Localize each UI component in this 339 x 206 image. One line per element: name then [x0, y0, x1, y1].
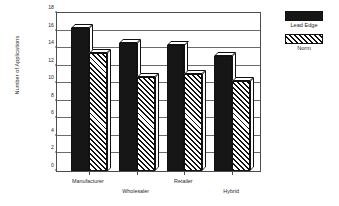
bar-group [71, 13, 107, 171]
bar-group [119, 13, 155, 171]
bar-front-face [89, 53, 107, 172]
x-axis-tick-mark [137, 171, 138, 175]
bar-side-face [107, 48, 111, 171]
y-axis-tick-label: 18 [48, 4, 54, 10]
bar-lead-edge [119, 43, 137, 171]
bar-front-face [137, 77, 155, 171]
bars-layer [57, 13, 260, 171]
bar-group [167, 13, 203, 171]
bar-group [214, 13, 250, 171]
hatched-swatch [285, 34, 323, 44]
x-axis-tick-mark [184, 171, 185, 175]
y-axis-tick-label: 8 [51, 92, 54, 98]
y-axis-tick-label: 2 [51, 144, 54, 150]
bar-norm [232, 81, 250, 171]
bar-front-face [232, 81, 250, 171]
plot-area: 024681012141618 [56, 12, 261, 172]
bar-side-face [155, 73, 159, 171]
legend-entry: Lead Edge [280, 11, 328, 28]
bar-chart-figure: Number of Applications 024681012141618 M… [0, 0, 339, 206]
y-axis-tick-label: 0 [51, 162, 54, 168]
solid-black-swatch [285, 11, 323, 21]
bar-front-face [167, 45, 185, 171]
bar-side-face [250, 76, 254, 171]
bar-side-face [202, 69, 206, 171]
y-axis-tick-label: 14 [48, 39, 54, 45]
y-axis-tick-label: 6 [51, 109, 54, 115]
y-axis-tick-label: 4 [51, 127, 54, 133]
bar-front-face [184, 74, 202, 171]
legend-label: Lead Edge [280, 22, 328, 28]
bar-norm [89, 53, 107, 172]
bar-norm [137, 77, 155, 171]
x-axis-tick-label: Retailer [174, 178, 193, 184]
bar-front-face [119, 43, 137, 171]
y-axis-title: Number of Applications [14, 10, 20, 120]
y-axis-tick-label: 16 [48, 22, 54, 28]
bar-norm [184, 74, 202, 171]
x-axis-tick-label: Hybrid [223, 188, 239, 194]
bar-lead-edge [214, 56, 232, 171]
chart-legend: Lead EdgeNorm [280, 11, 328, 57]
y-axis-tick-label: 10 [48, 74, 54, 80]
bar-front-face [71, 28, 89, 171]
bar-lead-edge [167, 45, 185, 171]
legend-entry: Norm [280, 34, 328, 51]
bar-lead-edge [71, 28, 89, 171]
legend-label: Norm [280, 45, 328, 51]
x-axis-tick-label: Wholesaler [122, 188, 149, 194]
bar-front-face [214, 56, 232, 171]
x-axis-tick-label: Manufacturer [72, 178, 104, 184]
y-axis-tick-label: 12 [48, 57, 54, 63]
x-axis-tick-mark [89, 171, 90, 175]
x-axis-tick-mark [232, 171, 233, 175]
